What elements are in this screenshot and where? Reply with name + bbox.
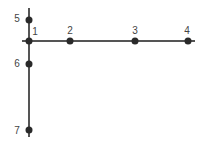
node-2 <box>67 38 74 45</box>
node-6 <box>26 61 33 68</box>
node-label-6: 6 <box>14 59 20 69</box>
vertical-edge <box>28 8 30 137</box>
diagram-canvas: 1 2 3 4 5 6 7 <box>0 0 208 149</box>
node-4 <box>185 38 192 45</box>
node-label-1: 1 <box>32 27 38 37</box>
node-7 <box>26 127 33 134</box>
node-label-7: 7 <box>14 126 20 136</box>
node-label-5: 5 <box>14 14 20 24</box>
node-label-2: 2 <box>67 26 73 36</box>
horizontal-edge <box>22 40 195 42</box>
node-label-3: 3 <box>132 26 138 36</box>
node-1 <box>26 38 33 45</box>
node-3 <box>132 38 139 45</box>
node-label-4: 4 <box>184 26 190 36</box>
node-5 <box>26 17 33 24</box>
